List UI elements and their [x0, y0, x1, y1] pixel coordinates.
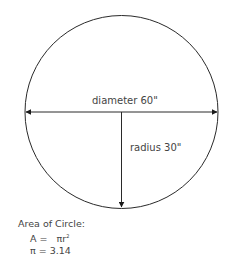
area-lhs: A = — [30, 233, 47, 244]
pi-value: π = 3.14 — [18, 245, 85, 257]
diameter-label: diameter 60" — [92, 96, 158, 106]
area-exponent: 2 — [66, 233, 69, 239]
area-equation: A = πr2 — [18, 230, 85, 245]
radius-label: radius 30" — [130, 143, 181, 153]
area-formula: Area of Circle: A = πr2 π = 3.14 — [18, 218, 85, 257]
area-rhs: πr — [57, 233, 67, 244]
formula-title: Area of Circle: — [18, 218, 85, 230]
